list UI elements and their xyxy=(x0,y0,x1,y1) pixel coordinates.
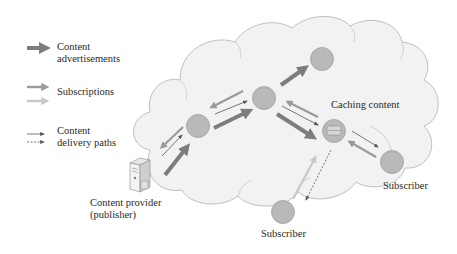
caching-node xyxy=(323,120,346,143)
network-cloud xyxy=(134,17,439,207)
router-node-3 xyxy=(311,48,334,71)
legend-text-line: Content xyxy=(57,125,116,137)
legend-text-line: Content xyxy=(57,41,120,53)
router-node-1 xyxy=(187,115,210,138)
legend-text-line: Subscriptions xyxy=(57,86,114,98)
legend-text-line: delivery paths xyxy=(57,137,116,149)
server-icon xyxy=(130,158,150,192)
router-node-2 xyxy=(253,87,276,110)
provider-label-line: Content provider xyxy=(90,197,161,209)
content-provider-label: Content provider (publisher) xyxy=(90,197,161,221)
provider-label-line: (publisher) xyxy=(90,209,161,221)
legend xyxy=(27,48,46,142)
subscriber-right-label: Subscriber xyxy=(383,180,428,192)
legend-label-delivery-paths: Content delivery paths xyxy=(57,125,116,149)
legend-label-advertisements: Content advertisements xyxy=(57,41,120,65)
legend-label-subscriptions: Subscriptions xyxy=(57,86,114,98)
legend-text-line: advertisements xyxy=(57,53,120,65)
subscriber-bottom-label: Subscriber xyxy=(261,228,306,240)
subscriber-node-bottom xyxy=(272,201,295,224)
subscriber-node-right xyxy=(381,151,404,174)
caching-content-label: Caching content xyxy=(331,99,400,111)
